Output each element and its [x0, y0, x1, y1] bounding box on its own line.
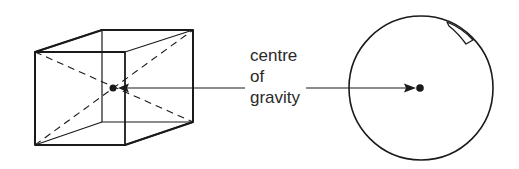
- centre-of-gravity-label: centre of gravity: [250, 45, 300, 108]
- circle-notch: [447, 22, 473, 44]
- cube-edge-bottom-left: [35, 122, 102, 145]
- label-line-2: of: [250, 66, 300, 87]
- cube-centre-dot: [110, 85, 117, 92]
- label-line-1: centre: [250, 45, 300, 66]
- circle-centre-dot: [416, 84, 424, 92]
- label-line-3: gravity: [250, 87, 300, 108]
- cube-front-face: [35, 52, 125, 145]
- cube-back-face: [102, 30, 193, 122]
- cube-edge-top-right: [125, 30, 193, 52]
